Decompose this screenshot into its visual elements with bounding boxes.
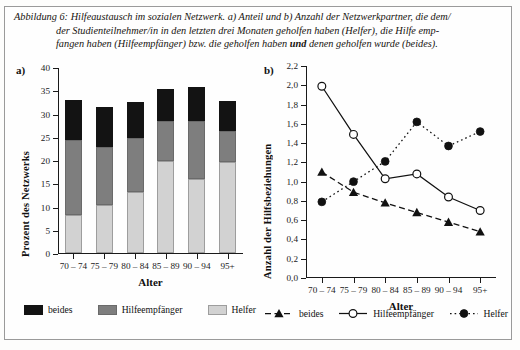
panel-b-legend: beidesHilfeempfängerHelfer [264,308,508,319]
data-point-triangle[interactable] [317,167,326,175]
bar-segment-hilfeempfaenger[interactable] [219,131,236,162]
y-tick-label: 25 [41,133,50,143]
panel-a-bar-chart: a) Prozent des Netzwerks 051015202530354… [6,60,258,342]
bar-segment-helfer[interactable] [65,215,82,253]
y-tick [301,85,306,86]
legend-item[interactable]: beides [264,308,324,319]
stacked-bar[interactable] [219,101,236,253]
stacked-bar[interactable] [96,107,113,253]
bar-segment-beides[interactable] [157,89,174,121]
y-tick [301,201,306,202]
series-helfer [318,118,484,206]
x-tick [449,278,450,283]
stacked-bar[interactable] [65,100,82,253]
bar-segment-hilfeempfaenger[interactable] [96,147,113,205]
y-tick [301,182,306,183]
panel-a-x-axis-line [58,253,243,254]
bar-segment-beides[interactable] [219,101,236,131]
data-point-filled-circle[interactable] [476,128,484,136]
y-tick-label: 0,2 [287,254,298,264]
gray-square-swatch [98,305,117,315]
data-point-open-circle[interactable] [350,131,358,139]
lightgray-square-swatch [208,305,227,315]
stacked-bar[interactable] [188,87,205,253]
x-tick [166,254,167,259]
x-tick [73,254,74,259]
y-tick [301,259,306,260]
bar-segment-beides[interactable] [96,107,113,148]
bar-segment-hilfeempfaenger[interactable] [188,121,205,178]
y-tick-label: 2,0 [287,80,298,90]
data-point-open-circle[interactable] [381,175,389,183]
x-tick-label: 75 – 79 [340,285,368,295]
data-point-triangle[interactable] [349,188,358,196]
data-point-triangle[interactable] [381,198,390,206]
data-point-open-circle[interactable] [476,207,484,215]
bar-segment-beides[interactable] [65,100,82,141]
figure-container: Abbildung 6: Hilfeaustausch im sozialen … [0,0,520,350]
y-tick-label: 30 [41,110,50,120]
y-tick-label: 5 [45,226,50,236]
x-tick [197,254,198,259]
y-tick [53,254,58,255]
y-tick-label: 35 [41,86,50,96]
data-point-open-circle[interactable] [413,170,421,178]
figure-caption: Abbildung 6: Hilfeaustausch im sozialen … [14,10,506,51]
series-line [322,122,480,202]
panel-b-y-axis-line [306,66,307,278]
bar-segment-helfer[interactable] [219,162,236,253]
x-tick-label: 70 – 74 [308,285,336,295]
x-tick-label: 90 – 94 [435,285,463,295]
legend-item[interactable]: Helfer [208,304,257,315]
black-square-swatch [24,305,43,315]
y-tick [301,105,306,106]
y-tick [53,115,58,116]
legend-item[interactable]: Hilfeempfänger [98,304,183,315]
series-line [322,172,480,232]
y-tick [53,91,58,92]
filled-triangle-dashed-marker [264,308,294,319]
data-point-filled-circle[interactable] [381,158,389,166]
y-tick-label: 10 [41,203,50,213]
caption-line-2: der Studienteilnehmer/in in den letzten … [14,24,506,38]
bar-segment-hilfeempfaenger[interactable] [157,121,174,161]
y-tick [301,278,306,279]
data-point-open-circle[interactable] [349,310,357,318]
bar-segment-helfer[interactable] [157,161,174,253]
bar-segment-helfer[interactable] [188,179,205,253]
legend-label: Helfer [232,304,257,315]
data-point-filled-circle[interactable] [460,310,468,318]
legend-item[interactable]: beides [24,304,73,315]
legend-item[interactable]: Hilfeempfänger [338,308,434,319]
bar-segment-helfer[interactable] [96,205,113,253]
data-point-open-circle[interactable] [445,193,453,201]
y-tick [301,143,306,144]
y-tick-label: 1,8 [287,100,298,110]
x-tick-label: 85 – 89 [403,285,431,295]
y-tick-label: 40 [41,63,50,73]
bar-segment-beides[interactable] [188,87,205,121]
x-tick [354,278,355,283]
legend-item[interactable]: Helfer [449,308,509,319]
bar-segment-beides[interactable] [127,102,144,137]
data-point-filled-circle[interactable] [350,178,358,186]
y-tick [53,161,58,162]
y-tick-label: 1,0 [287,177,298,187]
caption-line-3-pre: fangen haben (Hilfeempfänger) bzw. die g… [56,38,290,49]
data-point-filled-circle[interactable] [445,142,453,150]
data-point-filled-circle[interactable] [413,118,421,126]
stacked-bar[interactable] [127,102,144,253]
x-tick [480,278,481,283]
bar-segment-hilfeempfaenger[interactable] [127,138,144,192]
data-point-filled-circle[interactable] [318,198,326,206]
y-tick-label: 0 [45,249,50,259]
y-tick-label: 1,4 [287,138,298,148]
x-tick-label: 70 – 74 [60,261,88,271]
x-tick-label: 75 – 79 [90,261,118,271]
stacked-bar[interactable] [157,89,174,253]
y-tick-label: 1,2 [287,157,298,167]
bar-segment-hilfeempfaenger[interactable] [65,140,82,214]
data-point-open-circle[interactable] [318,82,326,90]
legend-label: beides [48,304,73,315]
bar-segment-helfer[interactable] [127,192,144,253]
